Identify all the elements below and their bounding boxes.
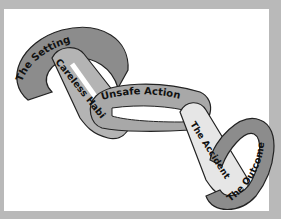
chain-diagram: The Setting Careless Habit Unsafe Action… bbox=[0, 0, 281, 219]
